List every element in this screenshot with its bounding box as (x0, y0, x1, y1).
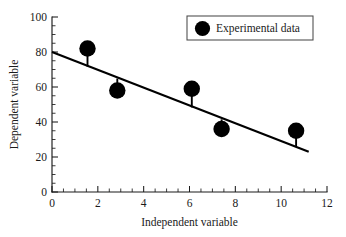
y-tick-label-20: 20 (36, 151, 48, 163)
x-axis-title: Independent variable (141, 216, 238, 229)
x-tick-label-6: 6 (187, 197, 193, 209)
x-tick-label-12: 12 (321, 197, 333, 209)
y-tick-label-40: 40 (36, 116, 48, 128)
data-point (213, 121, 229, 137)
y-axis-title: Dependent variable (8, 60, 21, 150)
data-point (109, 82, 125, 98)
scatter-plot-svg: 0 20 40 60 80 100 (0, 0, 346, 237)
y-tick-label-80: 80 (36, 46, 48, 58)
data-point (288, 123, 304, 139)
x-tick-label-0: 0 (49, 197, 55, 209)
y-axis-tick-labels: 0 20 40 60 80 100 (30, 11, 48, 198)
data-point (184, 81, 200, 97)
x-tick-label-2: 2 (95, 197, 101, 209)
x-tick-label-10: 10 (275, 197, 287, 209)
x-axis-major-ticks (52, 186, 327, 192)
x-tick-label-8: 8 (232, 197, 238, 209)
x-tick-label-4: 4 (141, 197, 147, 209)
y-tick-label-60: 60 (36, 81, 48, 93)
legend[interactable]: Experimental data (187, 16, 313, 40)
x-axis-tick-labels: 0 2 4 6 8 10 12 (49, 197, 333, 209)
regression-line (52, 52, 309, 152)
y-tick-label-0: 0 (41, 186, 47, 198)
legend-label-experimental-data: Experimental data (216, 22, 300, 35)
data-points-group (79, 40, 304, 139)
y-tick-label-100: 100 (30, 11, 48, 23)
chart-figure: 0 20 40 60 80 100 (0, 0, 346, 237)
data-point (79, 40, 95, 56)
legend-marker-icon (195, 21, 210, 36)
